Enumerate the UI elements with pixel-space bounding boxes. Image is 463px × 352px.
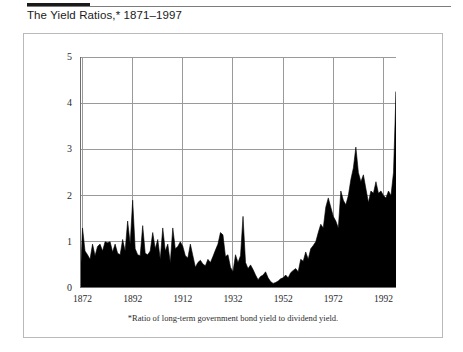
x-axis-tick-label: 1972 — [312, 294, 354, 304]
figure-root: The Yield Ratios,* 1871–1997 012345 1872… — [0, 0, 463, 352]
y-axis-tick-label: 2 — [50, 190, 72, 201]
plot-area — [80, 57, 396, 288]
x-axis-tick-label: 1952 — [262, 294, 304, 304]
yield-ratio-area-chart — [80, 57, 396, 288]
area-series-path — [80, 92, 396, 288]
y-axis-tick-label: 0 — [50, 282, 72, 293]
header-divider — [27, 6, 451, 7]
y-axis-tick-label: 4 — [50, 97, 72, 108]
y-axis-tick-label: 1 — [50, 236, 72, 247]
y-axis-tick-label: 5 — [50, 51, 72, 62]
chart-footnote: *Ratio of long-term government bond yiel… — [23, 313, 443, 323]
x-axis-tick-label: 1932 — [212, 294, 254, 304]
y-axis-tick-label: 3 — [50, 143, 72, 154]
x-axis-tick-label: 1992 — [362, 294, 404, 304]
x-axis-tick-label: 1892 — [112, 294, 154, 304]
x-axis-tick-label: 1872 — [62, 294, 104, 304]
page-title: The Yield Ratios,* 1871–1997 — [27, 9, 182, 21]
x-axis-tick-label: 1912 — [162, 294, 204, 304]
